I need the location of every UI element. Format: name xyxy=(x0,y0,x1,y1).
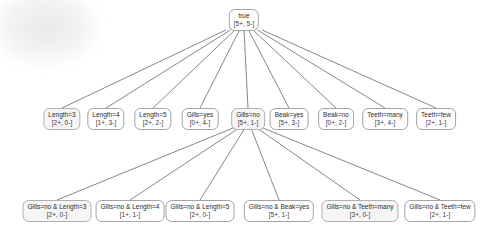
tree-node-gills-no-teeth-few: Gills=no & Teeth=few[2+, 1-] xyxy=(404,200,475,222)
node-label: true xyxy=(234,12,254,20)
tree-node-teeth-few: Teeth=few[2+, 1-] xyxy=(416,108,456,130)
node-label: Length=3 xyxy=(48,111,75,119)
tree-edge xyxy=(257,128,360,200)
node-counts: [3+, 4-] xyxy=(367,119,403,127)
node-counts: [2+, 0-] xyxy=(48,119,75,127)
node-counts: [2+, 0-] xyxy=(171,211,230,219)
node-counts: [2+, 2-] xyxy=(139,119,166,127)
tree-node-beak-yes: Beak=yes[5+, 3-] xyxy=(270,108,309,130)
tree-edge xyxy=(244,30,248,108)
node-label: Gills=no & Teeth=many xyxy=(326,203,393,211)
tree-edge xyxy=(262,30,436,108)
tree-node-gills-no-length-5: Gills=no & Length=5[2+, 0-] xyxy=(166,200,235,222)
tree-node-teeth-many: Teeth=many[3+, 4-] xyxy=(362,108,408,130)
node-counts: [1+, 1-] xyxy=(101,211,160,219)
tree-edge xyxy=(258,30,386,108)
node-counts: [2+, 1-] xyxy=(421,119,451,127)
tree-node-length-3: Length=3[2+, 0-] xyxy=(43,108,80,130)
tree-edge xyxy=(253,30,336,108)
node-label: Gills=no & Beak=yes xyxy=(249,203,309,211)
node-label: Beak=yes xyxy=(275,111,304,119)
tree-edge xyxy=(62,30,226,108)
tree-node-gills-no-beak-yes: Gills=no & Beak=yes[5+, 1-] xyxy=(244,200,314,222)
node-label: Length=4 xyxy=(92,111,119,119)
tree-node-beak-no: Beak=no[0+, 2-] xyxy=(318,108,354,130)
node-counts: [3+, 0-] xyxy=(326,211,393,219)
tree-node-gills-no-length-3: Gills=no & Length=3[2+, 0-] xyxy=(23,200,92,222)
tree-node-length-4: Length=4[1+, 3-] xyxy=(87,108,124,130)
node-counts: [0+, 2-] xyxy=(323,119,349,127)
tree-node-true: true[5+, 5-] xyxy=(229,9,259,31)
node-counts: [2+, 1-] xyxy=(409,211,470,219)
tree-edge xyxy=(263,128,440,200)
tree-node-gills-yes: Gills=yes[0+, 4-] xyxy=(182,108,219,130)
node-label: Length=5 xyxy=(139,111,166,119)
node-counts: [5+, 1-] xyxy=(236,119,260,127)
node-counts: [2+, 0-] xyxy=(28,211,87,219)
node-label: Teeth=many xyxy=(367,111,403,119)
node-counts: [5+, 1-] xyxy=(249,211,309,219)
node-label: Gills=no & Length=4 xyxy=(101,203,160,211)
node-counts: [0+, 4-] xyxy=(187,119,214,127)
tree-edge xyxy=(106,30,231,108)
tree-edge xyxy=(249,30,290,108)
node-label: Beak=no xyxy=(323,111,349,119)
node-label: Gills=yes xyxy=(187,111,214,119)
tree-edge xyxy=(153,30,235,108)
tree-node-length-5: Length=5[2+, 2-] xyxy=(134,108,171,130)
tree-edge xyxy=(251,128,279,200)
tree-node-gills-no-teeth-many: Gills=no & Teeth=many[3+, 0-] xyxy=(321,200,398,222)
tree-edge xyxy=(200,30,240,108)
node-label: Gills=no & Length=3 xyxy=(28,203,87,211)
node-label: Gills=no xyxy=(236,111,260,119)
tree-node-gills-no: Gills=no[5+, 1-] xyxy=(231,108,265,130)
node-counts: [1+, 3-] xyxy=(92,119,119,127)
node-label: Gills=no & Teeth=few xyxy=(409,203,470,211)
node-counts: [5+, 5-] xyxy=(234,20,254,28)
node-label: Teeth=few xyxy=(421,111,451,119)
node-counts: [5+, 3-] xyxy=(275,119,304,127)
rule-search-tree-figure: true[5+, 5-]Length=3[2+, 0-]Length=4[1+,… xyxy=(0,0,499,238)
node-label: Gills=no & Length=5 xyxy=(171,203,230,211)
tree-node-gills-no-length-4: Gills=no & Length=4[1+, 1-] xyxy=(96,200,165,222)
